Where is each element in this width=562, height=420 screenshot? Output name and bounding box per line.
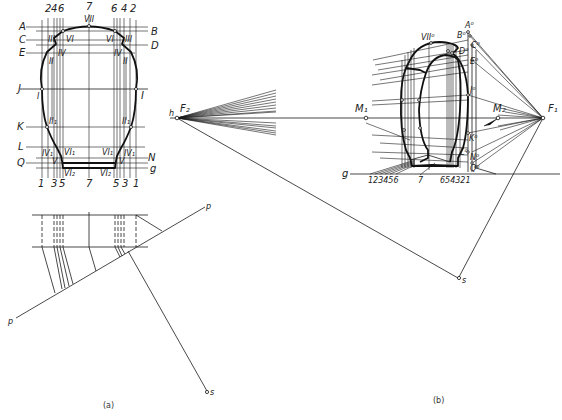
point-label: V	[52, 157, 58, 166]
m2-label: M₂	[493, 103, 506, 114]
j0-label: J⁰	[468, 86, 476, 95]
station-point-s-b	[457, 276, 460, 279]
col-label: 5	[59, 178, 65, 189]
l0-label: L⁰	[460, 148, 468, 157]
row-label: I	[141, 90, 144, 101]
figure-b-perspective: g	[342, 21, 560, 405]
col-label: 5	[113, 178, 119, 189]
col-label: 4	[51, 3, 57, 14]
sight-line	[128, 251, 207, 391]
perspective-drawing: 2 4 6 7 6 4 2 1 3 5 7 5 3 1 A C E J K L …	[0, 0, 562, 420]
h-label: h	[169, 109, 174, 118]
vanishing-point-f2	[175, 116, 179, 120]
caption-a: (a)	[103, 401, 114, 410]
q0-label: Q⁰	[470, 164, 480, 173]
m1-label: M₁	[355, 103, 368, 114]
b0-label: B⁰	[457, 31, 466, 40]
k0-label: K⁰	[469, 134, 478, 143]
point-label: III	[125, 35, 133, 44]
col-label: 6	[111, 3, 117, 14]
row-label: N	[148, 152, 156, 163]
base-number-mid: 7	[418, 176, 424, 185]
vanishing-point-f1	[541, 116, 545, 120]
base-numbers-right: 654321	[440, 176, 471, 185]
n0-label: N⁰	[470, 153, 480, 162]
row-label: C	[19, 34, 26, 45]
point-label: V	[119, 157, 125, 166]
col-label: 3	[122, 178, 128, 189]
point-label: II₁	[49, 117, 57, 126]
point-label: VI	[106, 35, 114, 44]
vase-outline-b-inner	[419, 55, 461, 162]
vii0-label: VII⁰	[421, 33, 435, 42]
s-label: s	[210, 388, 214, 397]
point-label: VI₁	[102, 148, 113, 157]
caption-b: (b)	[433, 396, 444, 405]
point-label: III	[48, 35, 56, 44]
col-label: 7	[86, 178, 93, 189]
f1-label: F₁	[548, 103, 558, 114]
row-label: g	[150, 163, 156, 174]
row-label: E	[19, 47, 26, 58]
picture-plane-line	[16, 207, 205, 318]
row-label: A	[18, 21, 26, 32]
base-numbers-left: 123456	[368, 176, 399, 185]
figure-a-plan: p p s (a)	[7, 202, 214, 410]
point-label: VI	[66, 35, 74, 44]
col-label: 1	[38, 178, 44, 189]
row-label: Q	[17, 157, 25, 168]
row-label: B	[151, 26, 158, 37]
col-label: 2	[130, 3, 136, 14]
col-label: 1	[133, 178, 139, 189]
col-label: 7	[86, 1, 93, 12]
p-label: p	[205, 202, 211, 211]
col-label: 3	[51, 178, 57, 189]
d0-label: D⁰	[459, 47, 469, 56]
point-label: VI₂	[64, 169, 76, 178]
f2-label: F₂	[180, 103, 190, 114]
row-label: J	[16, 83, 21, 94]
p-label: p	[7, 317, 13, 326]
point-label: II₁	[122, 117, 130, 126]
figure-a-elevation: 2 4 6 7 6 4 2 1 3 5 7 5 3 1 A C E J K L …	[16, 1, 159, 189]
row-label: D	[151, 40, 159, 51]
col-label: 4	[121, 3, 127, 14]
c0-label: C⁰	[471, 41, 481, 50]
point-label: II	[123, 57, 128, 66]
s-label-b: s	[462, 276, 466, 285]
point-label: VI₂	[100, 169, 112, 178]
col-label: 6	[58, 3, 64, 14]
g-label: g	[342, 168, 348, 179]
row-label: L	[18, 141, 24, 152]
point-label: I	[37, 92, 40, 101]
e0-label: E⁰	[470, 57, 479, 66]
point-label: IV	[114, 49, 122, 58]
point-label: IV	[58, 49, 66, 58]
horizon-and-f2: h F₂	[169, 90, 543, 278]
station-point-s	[205, 390, 208, 393]
measuring-point-m1	[364, 116, 368, 120]
point-label: VII	[84, 15, 95, 24]
row-label: K	[17, 121, 25, 132]
point-label: II	[49, 57, 54, 66]
point-label: VI₁	[64, 148, 75, 157]
a0-label: A⁰	[464, 21, 474, 30]
point-label: IV₁	[124, 149, 135, 158]
